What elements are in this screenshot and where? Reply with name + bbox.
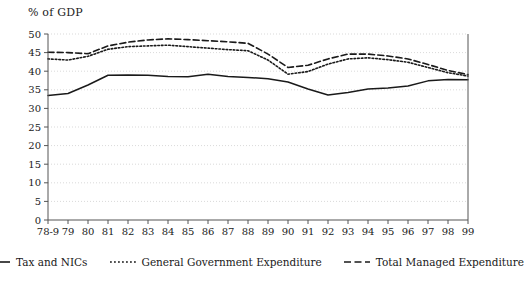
x-tick-label: 95 [382, 226, 395, 237]
x-tick-label: 90 [282, 226, 295, 237]
x-tick-label: 79 [62, 226, 75, 237]
x-tick-label: 89 [262, 226, 275, 237]
legend-swatch-dotted [110, 257, 136, 267]
x-tick-label: 84 [162, 226, 175, 237]
x-tick-label: 78-9 [37, 226, 59, 237]
legend-item[interactable]: General Government Expenditure [110, 256, 322, 268]
x-tick-label: 86 [202, 226, 215, 237]
x-axis-tick-labels: 78-9798081828384858687888990919293949596… [37, 226, 475, 237]
x-tick-label: 92 [322, 226, 335, 237]
x-tick-label: 94 [362, 226, 375, 237]
y-tick-label: 20 [28, 140, 41, 151]
x-tick-label: 87 [222, 226, 235, 237]
y-tick-label: 50 [28, 29, 41, 40]
x-tick-label: 85 [182, 226, 195, 237]
chart-plot-area: 05101520253035404550 78-9798081828384858… [0, 0, 508, 256]
series-line [48, 74, 468, 95]
y-tick-label: 45 [28, 47, 41, 58]
legend-item[interactable]: Total Managed Expenditure [344, 256, 524, 268]
x-tick-label: 97 [422, 226, 435, 237]
y-tick-label: 40 [28, 66, 41, 77]
x-tick-label: 80 [82, 226, 95, 237]
y-tick-label: 5 [35, 196, 41, 207]
x-tick-label: 82 [122, 226, 135, 237]
y-tick-label: 10 [28, 177, 41, 188]
y-axis-tick-labels: 05101520253035404550 [28, 29, 41, 226]
x-tick-label: 98 [442, 226, 455, 237]
series-lines [48, 39, 468, 96]
y-tick-label: 0 [35, 215, 41, 226]
y-tick-label: 35 [28, 84, 41, 95]
y-tick-label: 25 [28, 122, 41, 133]
legend-label: Total Managed Expenditure [376, 256, 524, 268]
x-tick-label: 99 [462, 226, 475, 237]
x-tick-label: 88 [242, 226, 255, 237]
x-tick-label: 93 [342, 226, 355, 237]
series-line [48, 39, 468, 75]
legend-item[interactable]: Tax and NICs [0, 256, 88, 268]
y-axis-ticks [44, 34, 48, 220]
x-axis-ticks [48, 220, 468, 224]
chart-legend: Tax and NICsGeneral Government Expenditu… [0, 256, 508, 268]
legend-swatch-solid [0, 257, 10, 267]
x-tick-label: 96 [402, 226, 415, 237]
y-tick-label: 15 [28, 159, 41, 170]
legend-swatch-dashed [344, 257, 370, 267]
x-tick-label: 91 [302, 226, 315, 237]
y-tick-label: 30 [28, 103, 41, 114]
legend-label: General Government Expenditure [142, 256, 322, 268]
legend-label: Tax and NICs [16, 256, 88, 268]
x-tick-label: 83 [142, 226, 155, 237]
x-tick-label: 81 [102, 226, 115, 237]
